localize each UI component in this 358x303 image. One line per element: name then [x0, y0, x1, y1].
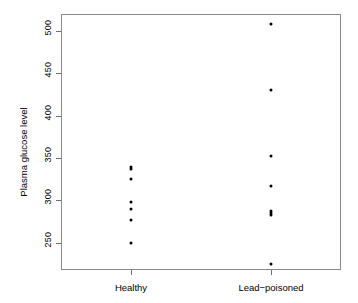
data-point [270, 23, 273, 26]
x-axis-tick-label: Healthy [115, 282, 147, 293]
y-axis-tick-label: 450 [49, 70, 58, 86]
data-point [130, 241, 133, 244]
data-point [130, 201, 133, 204]
x-axis-tick-label: Lead−poisoned [238, 282, 303, 293]
data-point [130, 218, 133, 221]
data-point [130, 178, 133, 181]
y-axis-tick-label: 250 [49, 240, 58, 256]
x-axis-tick [131, 270, 132, 275]
x-axis-tick [271, 270, 272, 275]
y-axis-tick-label: 300 [49, 197, 58, 213]
data-point [270, 213, 273, 216]
data-point [270, 155, 273, 158]
data-point [130, 168, 133, 171]
data-point [130, 207, 133, 210]
y-axis: 250300350400450500 [0, 0, 61, 303]
data-point [270, 263, 273, 266]
plot-area [61, 14, 341, 270]
x-axis: HealthyLead−poisoned [0, 270, 358, 303]
y-axis-tick-label: 350 [49, 155, 58, 171]
data-point [270, 89, 273, 92]
chart-canvas: Plasma glucose level 250300350400450500 … [0, 0, 358, 303]
data-point [270, 185, 273, 188]
y-axis-tick-label: 500 [49, 28, 58, 44]
y-axis-tick-label: 400 [49, 112, 58, 128]
